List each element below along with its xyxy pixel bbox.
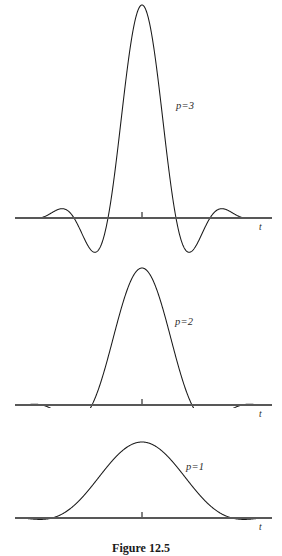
panel-label-p2: p=2 [175, 316, 193, 327]
panel-label-p3: p=3 [176, 100, 194, 111]
axis-label-t: t [259, 222, 262, 232]
axis-label-t: t [259, 522, 262, 532]
waveform-plot-p2 [0, 258, 282, 408]
waveform-plot-p1 [0, 424, 282, 540]
axis-label-t: t [259, 409, 262, 419]
figure-caption: Figure 12.5 [0, 541, 282, 556]
waveform-curve [18, 268, 269, 408]
panel-label-p1: p=1 [186, 461, 204, 472]
waveform-curve [18, 5, 269, 252]
waveform-plot-p3 [0, 0, 282, 262]
waveform-curve [18, 442, 269, 519]
